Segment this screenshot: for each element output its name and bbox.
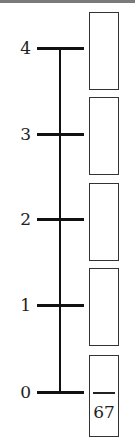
tick-label-4: 4 — [13, 39, 31, 57]
tick-label-2: 2 — [13, 210, 31, 228]
answer-box-0[interactable]: 67 — [89, 355, 119, 437]
tick-2 — [37, 218, 84, 221]
top-border — [0, 0, 135, 3]
answer-box-3[interactable] — [89, 97, 119, 175]
tick-label-3: 3 — [13, 125, 31, 143]
fraction-bar — [93, 392, 115, 394]
tick-0 — [37, 391, 84, 394]
fraction-denominator: 67 — [90, 402, 118, 422]
tick-label-0: 0 — [13, 383, 31, 401]
tick-3 — [37, 133, 84, 136]
answer-box-1[interactable] — [89, 268, 119, 346]
answer-box-4[interactable] — [89, 12, 119, 90]
answer-box-2[interactable] — [89, 183, 119, 261]
tick-label-1: 1 — [13, 296, 31, 314]
tick-4 — [37, 47, 84, 50]
tick-1 — [37, 304, 84, 307]
